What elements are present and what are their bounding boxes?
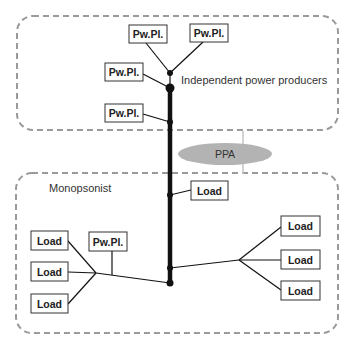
node bbox=[167, 119, 173, 125]
node bbox=[166, 84, 175, 93]
region-independent-power-producers bbox=[17, 16, 338, 130]
box-pp1: Pw.Pl. bbox=[129, 25, 167, 43]
box-label: Pw.Pl. bbox=[133, 28, 164, 40]
node bbox=[167, 70, 173, 76]
box-label: Pw.Pl. bbox=[194, 27, 225, 39]
box-label: Pw.Pl. bbox=[109, 107, 140, 119]
box-label: Load bbox=[197, 185, 222, 197]
box-pp-local: Pw.Pl. bbox=[89, 232, 127, 251]
box-label: Load bbox=[288, 220, 313, 232]
power-market-diagram: PPA Independent power producers Monopson… bbox=[0, 0, 349, 345]
node bbox=[167, 192, 173, 198]
box-label: Pw.Pl. bbox=[109, 66, 140, 78]
box-label: Load bbox=[288, 254, 313, 266]
region-label-monopsonist: Monopsonist bbox=[49, 182, 111, 194]
box-pp4: Pw.Pl. bbox=[105, 104, 143, 122]
box-load-right-3: Load bbox=[281, 281, 320, 300]
box-pp3: Pw.Pl. bbox=[105, 63, 143, 81]
box-load-left-2: Load bbox=[31, 262, 68, 281]
node bbox=[167, 265, 173, 271]
box-label: Load bbox=[37, 235, 62, 247]
box-pp2: Pw.Pl. bbox=[190, 24, 228, 42]
ppa-label: PPA bbox=[215, 148, 235, 160]
box-label: Load bbox=[288, 285, 313, 297]
box-label: Pw.Pl. bbox=[93, 236, 124, 248]
box-label: Load bbox=[37, 298, 62, 310]
box-load-center: Load bbox=[191, 181, 228, 200]
node bbox=[167, 280, 174, 287]
box-load-left-1: Load bbox=[31, 231, 68, 250]
region-label-ipp: Independent power producers bbox=[181, 74, 328, 86]
box-label: Load bbox=[37, 266, 62, 278]
box-load-right-1: Load bbox=[281, 216, 320, 236]
box-load-left-3: Load bbox=[31, 294, 68, 313]
box-load-right-2: Load bbox=[281, 250, 320, 269]
